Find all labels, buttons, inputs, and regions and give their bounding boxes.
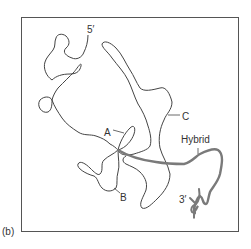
loop-c: [102, 42, 172, 208]
label-b: B: [120, 192, 127, 203]
label-hybrid: Hybrid: [181, 134, 210, 145]
three-prime-tail: [190, 189, 200, 218]
figure-frame: [22, 18, 239, 232]
label-c: C: [182, 111, 189, 122]
loop-b: [78, 150, 119, 191]
rna-hybrid-diagram: 5′ A B C Hybrid 3′ (b): [0, 0, 251, 249]
label-three-prime: 3′: [179, 194, 187, 205]
loop-a: [118, 126, 135, 150]
leader-a: [113, 130, 124, 133]
hybrid-strand: [118, 149, 222, 213]
panel-label: (b): [2, 226, 14, 237]
label-five-prime: 5′: [87, 24, 95, 35]
label-a: A: [104, 127, 111, 138]
